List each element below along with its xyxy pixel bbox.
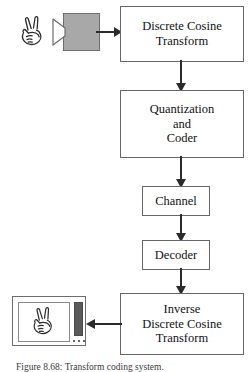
figure-canvas: Discrete Cosine Transform Quantization a… <box>0 0 248 372</box>
arrow-inverse-dct-to-display <box>86 316 122 332</box>
decoder-label: Decoder <box>143 248 209 263</box>
arrow-quantization-to-channel <box>174 156 188 188</box>
display-dot <box>83 340 85 342</box>
quant-label-line-2: and <box>121 117 243 132</box>
figure-caption: Figure 8.68: Transform coding system. <box>16 361 232 372</box>
discrete-cosine-transform-block: Discrete Cosine Transform <box>120 6 244 62</box>
hand-v-sign-icon <box>18 14 48 48</box>
quant-label-line-1: Quantization <box>121 102 243 117</box>
idct-label-line-2: Discrete Cosine <box>121 317 243 332</box>
dct-label-line-2: Transform <box>121 34 243 49</box>
display-dot <box>73 340 75 342</box>
channel-block: Channel <box>142 186 210 216</box>
camera-body <box>63 13 100 51</box>
idct-label-line-1: Inverse <box>121 302 243 317</box>
camera-lens-icon <box>52 18 66 46</box>
channel-label: Channel <box>143 194 209 209</box>
display-dot <box>78 340 80 342</box>
display-dots <box>73 338 85 343</box>
dct-label-line-1: Discrete Cosine <box>121 19 243 34</box>
decoder-block: Decoder <box>142 240 210 270</box>
arrow-channel-to-decoder <box>174 214 188 242</box>
quantization-and-coder-block: Quantization and Coder <box>120 90 244 158</box>
arrow-dct-to-quantization <box>174 60 188 92</box>
display-gray-bar <box>74 302 83 336</box>
arrow-decoder-to-inverse-dct <box>174 268 188 295</box>
video-camera-icon <box>52 13 100 51</box>
inverse-discrete-cosine-transform-block: Inverse Discrete Cosine Transform <box>120 293 244 355</box>
quant-label-line-3: Coder <box>121 131 243 146</box>
idct-label-line-3: Transform <box>121 331 243 346</box>
hand-v-sign-icon <box>30 305 58 337</box>
